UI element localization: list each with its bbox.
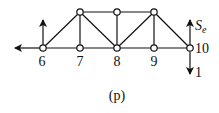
truss-members [43, 12, 190, 48]
caption: (p) [109, 88, 126, 104]
node-label-6: 6 [39, 54, 46, 69]
node-label-10: 10 [195, 41, 209, 56]
node-label-7: 7 [77, 54, 84, 69]
node-label-9: 9 [151, 54, 158, 69]
node-labels: 678910 [39, 41, 210, 69]
force-se-label: Se [195, 18, 207, 35]
node-T2 [114, 9, 120, 15]
node-8 [114, 45, 120, 51]
truss-member [80, 12, 117, 48]
node-7 [77, 45, 83, 51]
node-10 [187, 45, 193, 51]
truss-member [43, 12, 80, 48]
node-label-8: 8 [114, 54, 121, 69]
node-T3 [151, 9, 157, 15]
node-6 [40, 45, 46, 51]
node-9 [151, 45, 157, 51]
truss-diagram: Se1 678910 (p) [0, 0, 219, 113]
node-T1 [77, 9, 83, 15]
unit-load-label: 1 [195, 65, 202, 80]
truss-member [154, 12, 190, 48]
truss-member [117, 12, 154, 48]
